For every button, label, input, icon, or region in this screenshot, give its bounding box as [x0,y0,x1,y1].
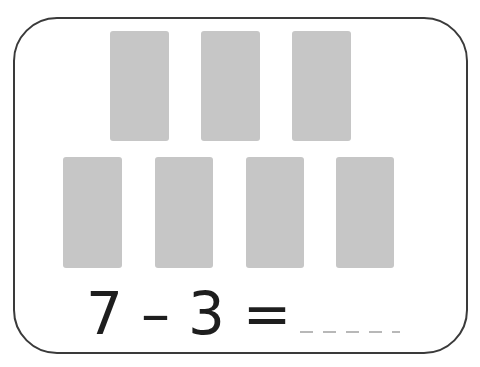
block-bottom-4 [336,157,394,268]
minuend: 7 [86,280,123,348]
subtrahend: 3 [188,280,225,348]
block-top-1 [110,31,169,141]
subtraction-equation: 7 – 3 = [86,280,291,350]
block-top-2 [201,31,260,141]
block-bottom-1 [63,157,122,268]
block-bottom-2 [155,157,213,268]
answer-blank[interactable] [300,331,400,333]
minus-sign: – [141,280,170,348]
equals-sign: = [243,280,292,348]
block-bottom-3 [246,157,304,268]
block-top-3 [292,31,351,141]
